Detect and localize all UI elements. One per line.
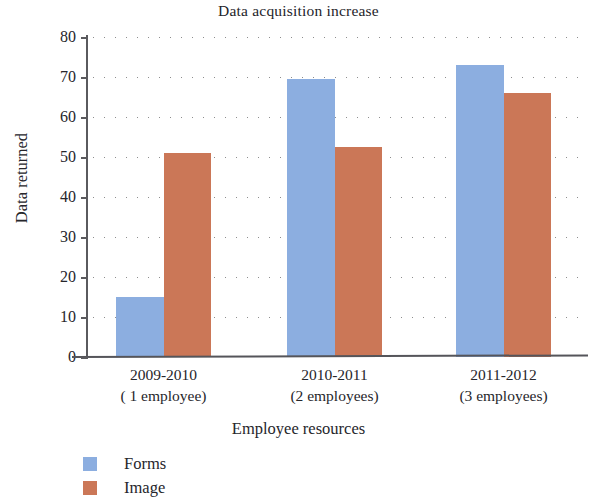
x-axis-category-label: 2011-2012(3 employees) bbox=[409, 364, 597, 406]
gridline bbox=[88, 37, 585, 38]
y-axis-tick bbox=[81, 357, 88, 359]
y-axis-tick-label: 50 bbox=[36, 149, 76, 165]
gridline bbox=[88, 77, 585, 78]
category-name: 2010-2011 bbox=[301, 366, 368, 383]
y-axis-tick-label: 70 bbox=[36, 69, 76, 85]
y-axis-tick bbox=[81, 277, 88, 279]
y-axis-tick bbox=[81, 197, 88, 199]
y-axis-tick-label: 40 bbox=[36, 189, 76, 205]
y-axis-tick-label: 0 bbox=[36, 349, 76, 365]
y-axis-tick-label: 10 bbox=[36, 309, 76, 325]
legend-swatch-icon bbox=[83, 481, 97, 495]
legend-swatch-icon bbox=[83, 457, 97, 471]
chart-legend: FormsImage bbox=[83, 452, 166, 500]
y-axis-tick bbox=[81, 317, 88, 319]
legend-label: Image bbox=[124, 479, 165, 497]
bar-forms-2010-2011 bbox=[287, 79, 335, 357]
category-name: 2011-2012 bbox=[470, 366, 537, 383]
bar-chart: Data acquisition increase Data returned … bbox=[0, 0, 597, 502]
y-axis-tick-label: 60 bbox=[36, 109, 76, 125]
y-axis-tick bbox=[81, 157, 88, 159]
y-axis-tick bbox=[81, 117, 88, 119]
plot-area bbox=[88, 37, 585, 357]
bar-image-2009-2010 bbox=[164, 153, 212, 357]
category-name: 2009-2010 bbox=[130, 366, 197, 383]
y-axis-tick bbox=[81, 237, 88, 239]
category-sublabel: ( 1 employee) bbox=[69, 385, 259, 406]
x-axis-category-label: 2010-2011(2 employees) bbox=[240, 364, 430, 406]
category-sublabel: (3 employees) bbox=[409, 385, 597, 406]
legend-item-forms[interactable]: Forms bbox=[83, 452, 166, 476]
y-axis-tick-label: 80 bbox=[36, 29, 76, 45]
bar-forms-2009-2010 bbox=[116, 297, 164, 357]
y-axis-tick-label: 30 bbox=[36, 229, 76, 245]
legend-label: Forms bbox=[124, 455, 166, 473]
chart-title: Data acquisition increase bbox=[0, 2, 597, 20]
bar-image-2011-2012 bbox=[504, 93, 552, 357]
y-axis-tick-label: 20 bbox=[36, 269, 76, 285]
y-axis-title: Data returned bbox=[12, 93, 32, 263]
y-axis-tick bbox=[81, 77, 88, 79]
x-axis-line bbox=[72, 354, 588, 358]
y-axis-tick bbox=[81, 37, 88, 39]
category-sublabel: (2 employees) bbox=[240, 385, 430, 406]
bar-forms-2011-2012 bbox=[456, 65, 504, 357]
bar-image-2010-2011 bbox=[335, 147, 383, 357]
legend-item-image[interactable]: Image bbox=[83, 476, 166, 500]
x-axis-title: Employee resources bbox=[0, 419, 597, 439]
x-axis-category-label: 2009-2010( 1 employee) bbox=[69, 364, 259, 406]
